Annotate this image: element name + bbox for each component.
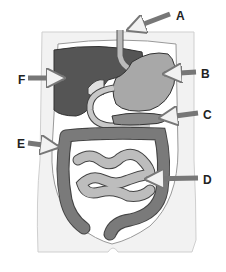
arrow-b: [164, 72, 196, 74]
label-a: A: [176, 10, 185, 22]
digestive-system-diagram: [0, 0, 226, 272]
arrow-a: [128, 14, 170, 30]
arrow-d: [146, 178, 198, 179]
label-e: E: [17, 138, 25, 150]
pancreas: [112, 113, 168, 125]
label-f: F: [18, 74, 25, 86]
label-b: B: [201, 68, 210, 80]
label-c: C: [203, 109, 212, 121]
label-d: D: [203, 174, 212, 186]
